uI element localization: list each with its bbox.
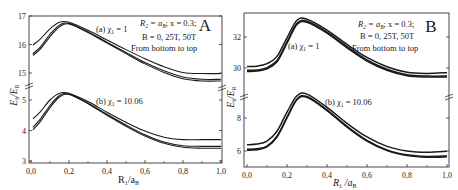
panel-a-group-b-label: (b) χ1 = 10.06 xyxy=(96,96,143,107)
x-tick-label: 0,0 xyxy=(26,167,36,176)
x-tick-label: 0,6 xyxy=(140,167,150,176)
y-tick-label: 5 xyxy=(22,96,26,105)
y-tick-label: 17 xyxy=(18,12,26,21)
panel-b-group-a-label: (a) χ1 = 1 xyxy=(288,41,319,52)
panel-b-annotation-line1: R2 = aB; x = 0.3; xyxy=(357,19,414,30)
panel-b-curves xyxy=(247,18,447,157)
panel-b-frame xyxy=(244,13,449,167)
panel-a-annotation-line3: From bottom to top xyxy=(131,43,197,53)
panel-a-annotation-line2: B = 0, 25T, 50T xyxy=(142,32,197,42)
panel-a-group-a-label: (a) χ1 = 1 xyxy=(96,24,127,35)
panel-a-x-axis-label: R1/aB xyxy=(118,174,139,186)
y-tick-label: 15 xyxy=(18,69,26,78)
panel-b: 323086 0,00,20,40,60,81,0 B R2 = aB; x =… xyxy=(226,13,453,189)
x-tick-label: 0,4 xyxy=(322,171,332,180)
y-tick-label: 30 xyxy=(233,64,241,73)
panel-b-group-b-label: (b) χ1 = 10.06 xyxy=(325,97,372,108)
y-tick-label: 4 xyxy=(22,127,26,136)
panel-a-y-axis-label: Eb/ER xyxy=(9,84,20,106)
panel-b-annotation-line2: B = 0, 25T, 50T xyxy=(360,31,415,41)
panel-a-x-ticks: 0,00,20,40,60,81,0 xyxy=(26,160,226,176)
y-tick-label: 16 xyxy=(18,41,26,50)
x-tick-label: 0,2 xyxy=(282,171,292,180)
y-tick-label: 8 xyxy=(237,114,241,123)
figure: 171615543 0,00,20,40,60,81,0 A R2 = aB; … xyxy=(0,0,458,190)
x-tick-label: 0,0 xyxy=(242,171,252,180)
x-tick-label: 0,4 xyxy=(102,167,112,176)
panel-b-x-axis-label: R1 /aB xyxy=(332,177,356,189)
panel-b-label: B xyxy=(425,17,436,36)
panel-a-annotation-line1: R2 = aB; x = 0.3; xyxy=(139,18,196,29)
y-tick-label: 32 xyxy=(233,33,241,42)
panel-a-label: A xyxy=(199,16,212,35)
x-tick-label: 0,2 xyxy=(64,167,74,176)
x-tick-label: 0,8 xyxy=(178,167,188,176)
y-tick-label: 6 xyxy=(237,147,241,156)
x-tick-label: 0,6 xyxy=(362,171,372,180)
panel-b-y-axis-label: Eb/ER xyxy=(226,86,237,108)
x-tick-label: 1,0 xyxy=(442,171,452,180)
x-tick-label: 0,8 xyxy=(402,171,412,180)
y-tick-label: 3 xyxy=(22,157,26,166)
panel-b-annotation-line3: From bottom to top xyxy=(352,43,418,53)
x-tick-label: 1,0 xyxy=(216,167,226,176)
panel-a: 171615543 0,00,20,40,60,81,0 A R2 = aB; … xyxy=(9,12,226,186)
